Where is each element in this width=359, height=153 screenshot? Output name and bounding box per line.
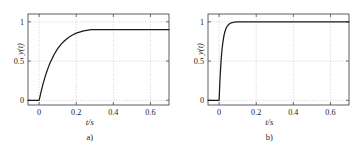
svg-text:0.2: 0.2 xyxy=(251,108,261,117)
svg-text:0: 0 xyxy=(199,96,203,105)
svg-text:1: 1 xyxy=(199,18,203,27)
svg-text:0.2: 0.2 xyxy=(71,108,81,117)
panel-label-b: b) xyxy=(180,132,359,142)
plot-b: 00.20.40.600.51 y(t) t/s b) xyxy=(180,0,359,153)
y-axis-label-a: y(t) xyxy=(15,31,25,67)
svg-text:0: 0 xyxy=(217,108,221,117)
panel-label-a: a) xyxy=(0,132,180,142)
svg-text:0: 0 xyxy=(37,108,41,117)
plot-b-canvas: 00.20.40.600.51 xyxy=(180,0,359,153)
svg-text:0.4: 0.4 xyxy=(108,108,118,117)
svg-text:0.6: 0.6 xyxy=(325,108,335,117)
svg-text:0.4: 0.4 xyxy=(288,108,298,117)
subfigure-b: 00.20.40.600.51 y(t) t/s b) xyxy=(180,0,359,153)
svg-text:0: 0 xyxy=(20,96,24,105)
svg-text:1: 1 xyxy=(20,18,24,27)
y-axis-label-b: y(t) xyxy=(195,31,205,67)
x-axis-label-a: t/s xyxy=(0,117,180,127)
x-axis-label-b: t/s xyxy=(180,117,359,127)
plot-a: 00.20.40.600.51 y(t) t/s a) xyxy=(0,0,180,153)
subfigure-a: 00.20.40.600.51 y(t) t/s a) xyxy=(0,0,180,153)
figure-two-step-responses: 00.20.40.600.51 y(t) t/s a) 00.20.40.600… xyxy=(0,0,359,153)
plot-a-canvas: 00.20.40.600.51 xyxy=(0,0,180,153)
svg-text:0.6: 0.6 xyxy=(145,108,155,117)
